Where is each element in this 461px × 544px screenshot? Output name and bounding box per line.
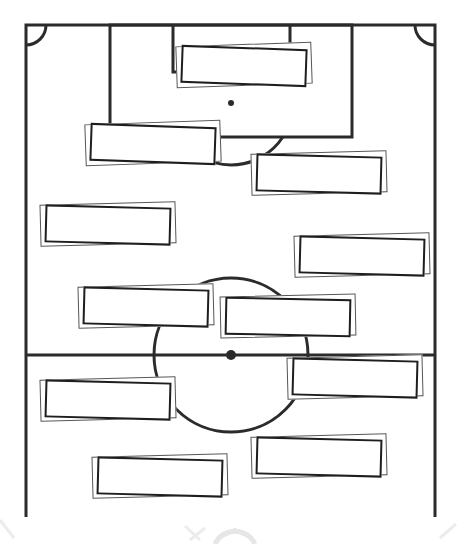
- player-card[interactable]: [181, 47, 307, 85]
- player-card[interactable]: [292, 359, 418, 397]
- player-card[interactable]: [299, 237, 425, 275]
- player-name-field[interactable]: [225, 297, 352, 338]
- player-name-field[interactable]: [83, 286, 210, 327]
- player-card[interactable]: [90, 125, 216, 163]
- corner-arc-left: [26, 25, 46, 45]
- corner-arc-right: [415, 25, 435, 45]
- player-name-field[interactable]: [299, 235, 426, 276]
- center-spot: [226, 350, 236, 360]
- player-card[interactable]: [256, 438, 382, 476]
- player-name-field[interactable]: [89, 123, 216, 165]
- player-name-field[interactable]: [97, 456, 224, 497]
- player-name-field[interactable]: [256, 436, 383, 477]
- player-card[interactable]: [83, 288, 209, 326]
- penalty-spot: [228, 100, 234, 106]
- player-card[interactable]: [45, 206, 171, 244]
- player-name-field[interactable]: [45, 379, 172, 420]
- player-card[interactable]: [256, 155, 382, 193]
- player-card[interactable]: [97, 458, 223, 496]
- player-name-field[interactable]: [45, 204, 172, 245]
- player-name-field[interactable]: [256, 153, 383, 194]
- player-name-field[interactable]: [292, 357, 419, 398]
- watermark-ball-icon: [0, 518, 461, 544]
- player-card[interactable]: [225, 298, 351, 336]
- player-name-field[interactable]: [180, 45, 307, 87]
- player-card[interactable]: [45, 381, 171, 419]
